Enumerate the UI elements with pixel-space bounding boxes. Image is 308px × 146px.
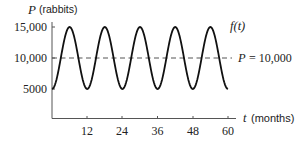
x-tick-label-12: 12 [81, 124, 93, 138]
y-tick-label-5000: 5000 [23, 82, 47, 96]
x-tick-label-36: 36 [152, 124, 164, 138]
x-tick-label-24: 24 [116, 124, 128, 138]
x-tick-label-60: 60 [222, 124, 234, 138]
chart-canvas: P (rabbits) 15,000 10,000 5000 12 24 36 … [0, 0, 308, 146]
y-axis-unit: (rabbits) [39, 3, 78, 15]
y-tick-label-10000: 10,000 [14, 51, 47, 65]
y-tick-label-15000: 15,000 [14, 20, 47, 34]
x-axis-unit: (months) [251, 112, 294, 124]
x-axis-variable: t [243, 111, 247, 125]
y-axis-variable: P [27, 2, 36, 17]
x-tick-label-48: 48 [187, 124, 199, 138]
reference-line-label-eq: = 10,000 [249, 51, 292, 65]
reference-line-label-var: P [237, 51, 246, 65]
curve-label: f(t) [230, 19, 245, 33]
